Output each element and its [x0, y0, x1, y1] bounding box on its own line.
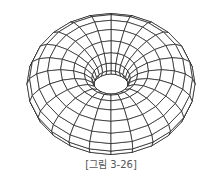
mesh-face [160, 58, 175, 71]
mesh-face [111, 109, 127, 122]
figure-caption: [그림 3-26] [0, 156, 222, 171]
mesh-face [92, 120, 111, 134]
mesh-face [48, 58, 63, 71]
mesh-face [95, 109, 111, 122]
mesh-face [111, 120, 130, 134]
torus-wireframe-diagram [0, 0, 222, 155]
torus-mesh [27, 13, 195, 154]
